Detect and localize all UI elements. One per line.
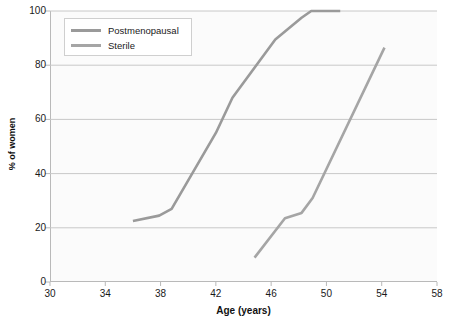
x-tick-label: 30 [30,289,70,299]
x-tick-label: 46 [251,289,291,299]
legend-label-sterile: Sterile [108,40,135,51]
x-tick-label: 34 [85,289,125,299]
legend-item-sterile: Sterile [71,38,185,53]
x-tick-label: 54 [362,289,402,299]
chart-legend: Postmenopausal Sterile [64,18,192,56]
x-tick-label: 42 [196,289,236,299]
legend-label-postmenopausal: Postmenopausal [108,25,179,36]
x-tick-label: 50 [306,289,346,299]
y-axis-title: % of women [7,99,17,189]
x-axis-title: Age (years) [50,305,437,316]
chart-container: 020406080100 3034384246505458 Age (years… [0,0,452,325]
legend-swatch-postmenopausal [71,29,101,32]
x-tick-label: 58 [417,289,452,299]
x-tick-label: 38 [141,289,181,299]
legend-item-postmenopausal: Postmenopausal [71,23,185,38]
legend-swatch-sterile [71,44,101,47]
